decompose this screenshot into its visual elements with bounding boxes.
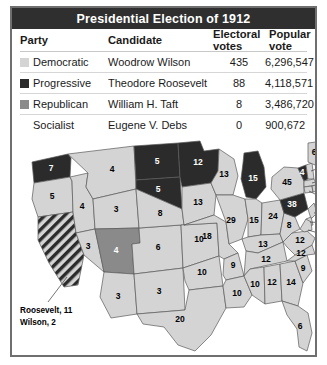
page-title: Presidential Election of 1912 [12, 8, 315, 29]
california-callout-line2: Wilson, 2 [20, 318, 56, 327]
party-cell: Democratic [20, 56, 108, 68]
candidate-cell: Theodore Roosevelt [108, 77, 213, 89]
state-value-IL: 29 [226, 215, 236, 225]
state-value-NC: 12 [296, 248, 306, 258]
candidate-cell: Eugene V. Debs [108, 119, 213, 131]
party-color-swatch-icon [20, 121, 29, 130]
state-value-OH: 24 [268, 211, 278, 221]
party-label: Socialist [33, 119, 74, 131]
candidate-cell: William H. Taft [108, 98, 213, 110]
state-value-WI: 13 [219, 169, 229, 179]
state-value-WV: 8 [287, 220, 292, 230]
electoral-votes-cell: 88 [213, 77, 265, 89]
state-value-TN: 12 [261, 254, 271, 264]
state-value-PA: 38 [287, 199, 297, 209]
state-value-MT: 4 [110, 164, 115, 174]
table-row: Republican William H. Taft 8 3,486,720 [20, 94, 307, 115]
state-value-WA: 7 [49, 163, 54, 173]
table-row: Democratic Woodrow Wilson 435 6,296,547 [20, 52, 307, 73]
party-cell: Republican [20, 98, 108, 110]
state-value-AR: 9 [231, 260, 236, 270]
party-color-swatch-icon [20, 79, 29, 88]
state-value-OK: 10 [197, 267, 207, 277]
state-value-KY: 13 [258, 239, 268, 249]
california-callout-line1: Roosevelt, 11 [20, 306, 73, 315]
popular-vote-cell: 3,486,720 [265, 98, 316, 110]
party-label: Progressive [33, 77, 91, 89]
electoral-votes-cell: 0 [213, 119, 265, 131]
party-label: Democratic [33, 56, 89, 68]
party-color-swatch-icon [20, 100, 29, 109]
state-value-IA: 13 [193, 197, 203, 207]
state-value-OR: 5 [50, 191, 55, 201]
state-value-IN: 15 [249, 215, 259, 225]
state-value-MS: 10 [250, 279, 260, 289]
state-value-CO: 6 [156, 242, 161, 252]
state-value-UT: 4 [114, 245, 119, 255]
party-cell: Progressive [20, 77, 108, 89]
state-value-NM: 3 [157, 286, 162, 296]
popular-vote-cell: 6,296,547 [265, 56, 316, 68]
state-value-ND: 5 [155, 156, 160, 166]
state-value-NV: 3 [86, 241, 91, 251]
infographic-root: Presidential Election of 1912 Party Cand… [0, 0, 327, 365]
state-value-VA: 12 [295, 235, 305, 245]
column-header-electoral-votes: Electoral votes [213, 28, 269, 52]
column-header-popular-vote: Popular vote [269, 28, 313, 52]
electoral-votes-cell: 435 [213, 56, 265, 68]
state-value-MI: 15 [248, 173, 258, 183]
state-value-ID: 4 [80, 201, 85, 211]
party-color-swatch-icon [20, 58, 29, 67]
results-table: Party Candidate Electoral votes Popular … [12, 29, 315, 135]
state-NJ [308, 203, 315, 219]
state-value-LA: 10 [232, 288, 242, 298]
column-header-party: Party [20, 34, 108, 46]
card-frame: Presidential Election of 1912 Party Cand… [10, 6, 317, 357]
state-value-AZ: 3 [116, 291, 121, 301]
leader-line-CA [48, 277, 67, 302]
electoral-votes-cell: 8 [213, 98, 265, 110]
candidate-cell: Woodrow Wilson [108, 56, 213, 68]
us-map-svg: 7 5 4 3 4 3 4 3 6 3 5 5 8 10 10 20 12 13… [12, 137, 315, 357]
state-value-SC: 9 [301, 263, 306, 273]
state-value-MO: 18 [202, 231, 212, 241]
state-value-AL: 12 [267, 277, 277, 287]
popular-vote-cell: 900,672 [265, 119, 307, 131]
state-value-NY: 45 [282, 177, 292, 187]
column-header-candidate: Candidate [108, 34, 213, 46]
party-cell: Socialist [20, 119, 108, 131]
state-value-MN: 12 [193, 157, 203, 167]
state-value-ME: 6 [312, 147, 315, 157]
party-label: Republican [33, 98, 88, 110]
state-value-GA: 14 [286, 277, 296, 287]
popular-vote-cell: 4,118,571 [265, 77, 315, 89]
state-value-TX: 20 [175, 314, 185, 324]
state-value-NE: 8 [158, 208, 163, 218]
table-header-row: Party Candidate Electoral votes Popular … [20, 29, 307, 52]
state-value-VT: 4 [300, 167, 305, 177]
table-row: Progressive Theodore Roosevelt 88 4,118,… [20, 73, 307, 94]
table-row: Socialist Eugene V. Debs 0 900,672 [20, 115, 307, 135]
state-value-FL: 6 [298, 321, 303, 331]
state-value-WY: 3 [114, 204, 119, 214]
state-value-SD: 5 [156, 184, 161, 194]
electoral-map: 7 5 4 3 4 3 4 3 6 3 5 5 8 10 10 20 12 13… [12, 137, 315, 357]
